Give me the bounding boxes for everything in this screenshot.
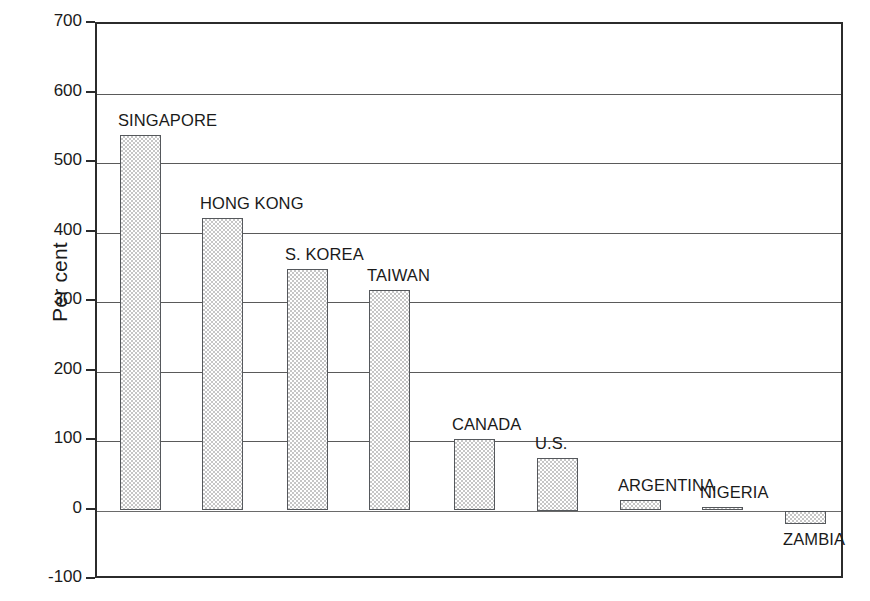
bar[interactable] (785, 511, 826, 525)
bar-label: S. KOREA (285, 245, 364, 264)
y-axis-tick-mark (86, 21, 95, 23)
bar[interactable] (537, 458, 578, 510)
bar[interactable] (120, 135, 161, 510)
y-axis-tick-label: 600 (20, 81, 82, 101)
bar-label: HONG KONG (200, 194, 304, 213)
y-axis-tick-mark (86, 299, 95, 301)
plot-area: SINGAPOREHONG KONGS. KOREATAIWANCANADAU.… (95, 22, 843, 578)
bar-label: U.S. (535, 434, 568, 453)
y-axis-tick-mark (86, 160, 95, 162)
bar-label: SINGAPORE (118, 111, 217, 130)
y-axis-tick-mark (86, 91, 95, 93)
y-axis-title: Per cent (48, 222, 72, 342)
gridline (97, 94, 841, 95)
bar-label: CANADA (452, 415, 521, 434)
y-axis-tick-mark (86, 369, 95, 371)
bar[interactable] (702, 507, 743, 510)
bar[interactable] (369, 290, 410, 510)
bar[interactable] (454, 439, 495, 511)
gridline (97, 511, 841, 512)
bar-label: NIGERIA (700, 483, 769, 502)
y-axis-tick-mark (86, 438, 95, 440)
y-axis-tick-mark (86, 577, 95, 579)
bar[interactable] (620, 500, 661, 510)
y-axis-tick-label: 500 (20, 150, 82, 170)
bar-label: TAIWAN (367, 266, 430, 285)
y-axis-tick-mark (86, 508, 95, 510)
y-axis-tick-label: 700 (20, 11, 82, 31)
y-axis-tick-label: 200 (20, 359, 82, 379)
y-axis-tick-label: 400 (20, 220, 82, 240)
y-axis-tick-mark (86, 230, 95, 232)
y-axis-tick-label: 100 (20, 428, 82, 448)
y-axis-tick-label: -100 (20, 567, 82, 587)
gridline (97, 163, 841, 164)
y-axis-tick-label: 0 (20, 498, 82, 518)
bar[interactable] (287, 269, 328, 510)
bar[interactable] (202, 218, 243, 511)
y-axis-tick-label: 300 (20, 289, 82, 309)
bar-label: ZAMBIA (783, 530, 845, 549)
bar-chart: Per cent 7006005004003002001000-100 SING… (0, 0, 870, 601)
